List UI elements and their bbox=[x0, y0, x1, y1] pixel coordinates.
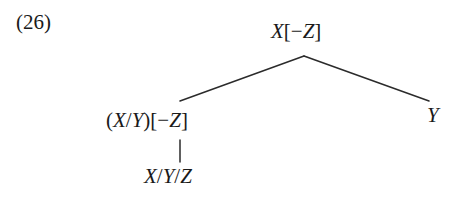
node-left-denominator: Y bbox=[132, 108, 144, 132]
syntax-tree-figure: (26) X[−Z] (X/Y)[−Z] Y X/Y/Z bbox=[0, 0, 461, 207]
node-left-minus-sign: − bbox=[157, 108, 169, 132]
example-number: (26) bbox=[16, 12, 51, 33]
node-root-open-bracket: [ bbox=[284, 19, 291, 43]
branch-root-to-left-daughter bbox=[180, 56, 304, 101]
tree-branch-lines bbox=[0, 0, 461, 207]
tree-node-root: X[−Z] bbox=[271, 21, 321, 42]
node-left-numerator: X bbox=[113, 108, 126, 132]
node-left-close-bracket: ] bbox=[181, 108, 188, 132]
node-left-open-paren: ( bbox=[106, 108, 113, 132]
node-terminal-third: Z bbox=[180, 164, 192, 188]
node-root-close-bracket: ] bbox=[314, 19, 321, 43]
node-root-minus-sign: − bbox=[291, 19, 303, 43]
node-terminal-second: Y bbox=[163, 164, 175, 188]
tree-node-right-daughter: Y bbox=[427, 105, 439, 126]
node-root-category: X bbox=[271, 19, 284, 43]
branch-root-to-right-daughter bbox=[304, 56, 429, 101]
tree-node-left-daughter: (X/Y)[−Z] bbox=[106, 110, 188, 131]
node-left-feature: Z bbox=[169, 108, 181, 132]
node-right-category: Y bbox=[427, 103, 439, 127]
node-terminal-first: X bbox=[144, 164, 157, 188]
tree-node-terminal: X/Y/Z bbox=[144, 166, 192, 187]
node-root-feature: Z bbox=[303, 19, 315, 43]
